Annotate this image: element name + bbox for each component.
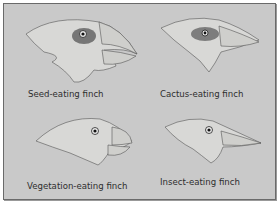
cactus-eating-finch-illustration [139, 4, 275, 86]
finch-beaks-diagram: Seed-eating finch Cactus-eating finch Ve… [3, 3, 276, 200]
vegetation-eating-finch-illustration [4, 101, 139, 179]
label-vegetation-eating: Vegetation-eating finch [27, 181, 127, 191]
label-cactus-eating: Cactus-eating finch [160, 89, 243, 99]
label-insect-eating: Insect-eating finch [160, 177, 240, 187]
label-seed-eating: Seed-eating finch [28, 89, 104, 99]
panel-vegetation-eating: Vegetation-eating finch [4, 101, 139, 199]
panel-cactus-eating: Cactus-eating finch [139, 4, 275, 101]
insect-eating-finch-illustration [139, 101, 275, 179]
seed-eating-finch-illustration [4, 4, 139, 86]
panel-seed-eating: Seed-eating finch [4, 4, 139, 101]
panel-insect-eating: Insect-eating finch [139, 101, 275, 199]
